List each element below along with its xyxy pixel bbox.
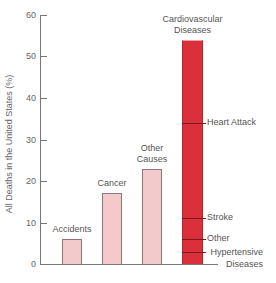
y-tick bbox=[40, 15, 47, 16]
y-axis-label: All Deaths in the United States (%) bbox=[4, 75, 14, 214]
annotation-hypertensive-diseases: Hypertensive Diseases bbox=[207, 246, 263, 270]
y-tick-label: 50 bbox=[16, 51, 36, 61]
bar-accidents bbox=[62, 239, 82, 264]
bar-label-accidents: Accidents bbox=[27, 224, 117, 235]
y-tick-label: 30 bbox=[16, 135, 36, 145]
y-tick-label: 20 bbox=[16, 176, 36, 186]
y-tick bbox=[40, 56, 47, 57]
marker-line-hypertensive-diseases bbox=[182, 252, 206, 253]
bar-chart: All Deaths in the United States (%) 0 10… bbox=[0, 0, 276, 283]
bar-label-cardiovascular-diseases: Cardiovascular Diseases bbox=[148, 14, 238, 36]
y-tick bbox=[40, 98, 47, 99]
y-tick bbox=[40, 181, 47, 182]
bar-label-cancer: Cancer bbox=[67, 178, 157, 189]
marker-line-stroke bbox=[182, 218, 206, 219]
y-tick-label: 40 bbox=[16, 93, 36, 103]
annotation-stroke: Stroke bbox=[207, 212, 233, 223]
y-tick bbox=[40, 264, 47, 265]
bar-label-other-causes: Other Causes bbox=[107, 143, 197, 165]
x-axis-line bbox=[40, 264, 218, 265]
y-tick-label: 0 bbox=[16, 259, 36, 269]
y-tick bbox=[40, 140, 47, 141]
y-tick-label: 60 bbox=[16, 10, 36, 20]
annotation-other: Other bbox=[207, 233, 230, 244]
marker-line-other bbox=[182, 239, 206, 240]
marker-line-heart-attack bbox=[182, 123, 206, 124]
annotation-heart-attack: Heart Attack bbox=[207, 117, 256, 128]
